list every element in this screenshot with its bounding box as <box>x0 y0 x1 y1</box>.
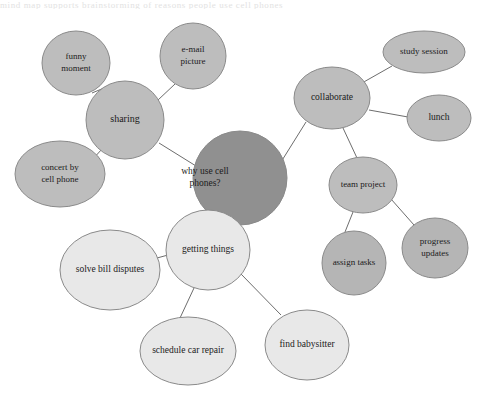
node-schedule-car-repair[interactable]: schedule car repair <box>140 317 236 385</box>
node-label-solve-bill-disputes: solve bill disputes <box>76 264 145 274</box>
node-label-lunch: lunch <box>428 112 449 122</box>
mind-map-diagram: mind map supports brainstorming of reaso… <box>0 0 479 401</box>
node-label-email-picture: picture <box>181 56 206 66</box>
edge-getting-things-to-schedule-car-repair <box>180 288 194 318</box>
page-text-remnant: mind map supports brainstorming of reaso… <box>0 0 479 9</box>
node-concert-by-cell-phone[interactable]: concert bycell phone <box>15 141 105 207</box>
node-label-collaborate: collaborate <box>311 92 353 102</box>
node-find-babysitter[interactable]: find babysitter <box>265 310 349 380</box>
node-sharing[interactable]: sharing <box>86 81 164 159</box>
node-getting-things[interactable]: getting things <box>166 210 250 290</box>
node-label-center: phones? <box>189 178 220 188</box>
node-solve-bill-disputes[interactable]: solve bill disputes <box>60 230 160 310</box>
node-label-email-picture: e-mail <box>182 44 205 54</box>
node-email-picture[interactable]: e-mailpicture <box>160 23 226 89</box>
node-team-project[interactable]: team project <box>329 157 397 213</box>
edge-getting-things-to-find-babysitter <box>241 274 281 315</box>
node-label-center: why use cell <box>181 166 229 176</box>
edge-collaborate-to-study-session <box>362 66 392 83</box>
node-label-progress-updates: progress <box>420 236 451 246</box>
node-label-concert-by-cell-phone: cell phone <box>41 174 78 184</box>
mind-map-canvas: why use cellphones?sharingfunnymomente-m… <box>0 0 479 401</box>
node-progress-updates[interactable]: progressupdates <box>402 218 468 278</box>
edge-collaborate-to-lunch <box>369 110 408 117</box>
nodes-layer: why use cellphones?sharingfunnymomente-m… <box>15 23 471 385</box>
edge-team-project-to-assign-tasks <box>345 212 353 232</box>
edge-sharing-to-email-picture <box>158 84 175 100</box>
node-label-assign-tasks: assign tasks <box>333 257 376 267</box>
node-collaborate[interactable]: collaborate <box>294 67 370 129</box>
node-label-schedule-car-repair: schedule car repair <box>152 345 225 355</box>
node-label-funny-moment: moment <box>61 63 91 73</box>
node-label-getting-things: getting things <box>182 244 234 254</box>
node-label-concert-by-cell-phone: concert by <box>41 162 79 172</box>
node-assign-tasks[interactable]: assign tasks <box>322 231 386 295</box>
node-label-find-babysitter: find babysitter <box>279 339 335 349</box>
node-label-team-project: team project <box>341 179 386 189</box>
node-label-progress-updates: updates <box>421 248 449 258</box>
edge-team-project-to-progress-updates <box>391 199 414 225</box>
node-label-funny-moment: funny <box>66 51 87 61</box>
node-funny-moment[interactable]: funnymoment <box>42 31 110 95</box>
edge-center-to-collaborate <box>281 122 306 162</box>
edge-center-to-sharing <box>159 143 196 166</box>
node-lunch[interactable]: lunch <box>407 95 471 141</box>
node-label-study-session: study session <box>400 46 448 56</box>
node-label-sharing: sharing <box>110 113 139 124</box>
edge-collaborate-to-team-project <box>343 128 357 158</box>
node-study-session[interactable]: study session <box>383 31 465 73</box>
